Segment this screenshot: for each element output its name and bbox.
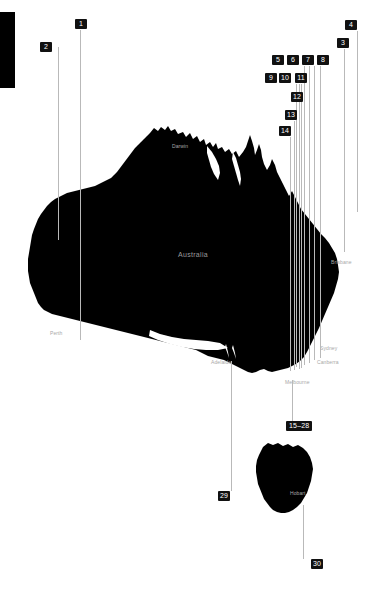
leader-line-14	[290, 137, 291, 371]
leader-line-10	[296, 84, 297, 367]
callout-tag-7[interactable]: 7	[302, 55, 314, 65]
callout-tag-9[interactable]: 9	[265, 73, 277, 83]
leader-line-3	[344, 49, 345, 252]
callout-tag-11[interactable]: 11	[295, 73, 307, 83]
city-label-adelaide: Adelaide	[211, 359, 231, 365]
leader-line-7	[309, 66, 310, 363]
callout-tag-13[interactable]: 13	[285, 110, 297, 120]
callout-tag-1[interactable]: 1	[75, 19, 87, 29]
callout-tag-30[interactable]: 30	[311, 559, 323, 569]
leader-line-5	[320, 66, 321, 358]
callout-tag-6[interactable]: 6	[287, 55, 299, 65]
leader-line-11	[301, 84, 302, 368]
callout-tag-14[interactable]: 14	[279, 126, 291, 136]
leader-line-30	[303, 505, 304, 559]
city-label-canberra: Canberra	[317, 359, 339, 365]
city-label-perth: Perth	[50, 330, 62, 336]
city-label-melbourne: Melbourne	[285, 379, 310, 385]
australia-map-silhouette	[0, 0, 379, 595]
city-label-hobart: Hobart	[290, 490, 306, 496]
callout-tag-8[interactable]: 8	[317, 55, 329, 65]
city-label-darwin: Darwin	[172, 143, 188, 149]
callout-tag-5[interactable]: 5	[272, 55, 284, 65]
leader-line-12	[299, 103, 300, 369]
leader-line-4	[357, 31, 358, 212]
callout-tag-15-28[interactable]: 15–28	[286, 421, 312, 431]
country-label-australia: Australia	[178, 251, 208, 259]
callout-tag-2[interactable]: 2	[40, 42, 52, 52]
leader-line-13	[294, 121, 295, 370]
callout-tag-3[interactable]: 3	[337, 38, 349, 48]
callout-tag-29[interactable]: 29	[218, 491, 230, 501]
callout-tag-12[interactable]: 12	[291, 92, 303, 102]
leader-line-15-28	[292, 380, 293, 421]
callout-tag-10[interactable]: 10	[279, 73, 291, 83]
australia-callout-figure: Australia Darwin Brisbane Perth Sydney C…	[0, 0, 379, 595]
leader-line-1	[80, 30, 81, 340]
leader-line-6	[314, 66, 315, 360]
city-label-sydney: Sydney	[320, 345, 337, 351]
leader-line-29	[231, 361, 232, 491]
callout-tag-4[interactable]: 4	[345, 20, 357, 30]
city-label-brisbane: Brisbane	[331, 259, 352, 265]
leader-line-2	[58, 47, 59, 240]
leader-line-8	[304, 66, 305, 365]
